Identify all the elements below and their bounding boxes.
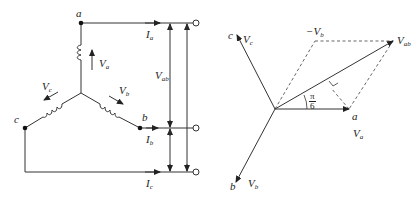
angle-arc — [304, 95, 307, 109]
label-vab: Vab — [155, 70, 169, 83]
node-c-label: c — [14, 114, 19, 125]
wye-circuit — [25, 23, 193, 172]
node-a-dot — [79, 21, 84, 26]
dashed-right — [349, 41, 393, 109]
phasor-label-va: Va — [353, 128, 363, 141]
node-b-label: b — [142, 112, 148, 123]
coil-c — [43, 104, 62, 117]
label-vb: Vb — [119, 85, 129, 98]
label-va: Va — [99, 58, 109, 71]
coil-a — [77, 45, 81, 60]
phasor-label-neg-vb: −Vb — [306, 26, 324, 39]
node-a-label: a — [76, 8, 82, 19]
wire-c-inner — [62, 93, 81, 104]
terminal-c — [193, 169, 199, 175]
dashed-perp — [331, 88, 349, 109]
phasor-label-vb: Vb — [248, 178, 258, 191]
phasor-vab — [275, 41, 393, 109]
label-ia: Ia — [146, 29, 153, 42]
wire-c-outer — [25, 117, 43, 128]
wire-b-inner — [81, 93, 100, 104]
right-angle-mark — [329, 81, 338, 86]
phasor-vb — [236, 109, 275, 182]
coil-b — [100, 104, 119, 117]
terminal-b — [193, 125, 199, 131]
node-b-dot — [138, 126, 143, 131]
phasor-label-vc: Vc — [243, 34, 253, 47]
phasor-node-a: a — [352, 111, 358, 122]
angle-label: π 6 — [309, 92, 316, 111]
label-vc: Vc — [42, 81, 52, 94]
label-ib: Ib — [146, 134, 153, 147]
phasor-node-b: b — [230, 181, 236, 192]
wire-b-outer — [119, 117, 140, 128]
diagram-canvas — [0, 0, 419, 203]
node-c-dot — [23, 126, 28, 131]
phasor-label-vab: Vab — [397, 35, 411, 48]
phasor-node-c: c — [228, 30, 233, 41]
label-ic: Ic — [146, 178, 153, 191]
terminal-a — [193, 20, 199, 26]
